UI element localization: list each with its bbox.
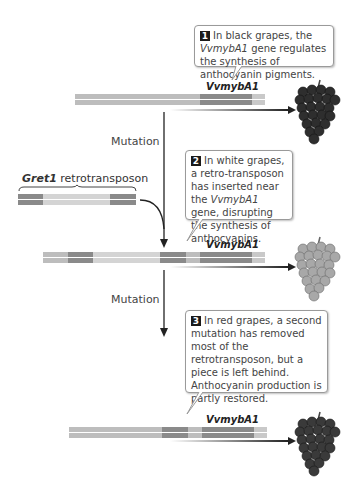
retrotransposon-name: Gret1 (22, 172, 57, 185)
gene-label-2: VvmybA1 (206, 239, 259, 250)
step-3-text: In red grapes, a second mutation has rem… (191, 315, 322, 404)
step-3-badge: 3 (191, 316, 201, 326)
step-1-badge: 1 (200, 31, 210, 41)
step-3-callout: 3In red grapes, a second mutation has re… (185, 310, 328, 393)
step-2-callout: 2In white grapes, a retro-transposon has… (185, 150, 293, 220)
gene-label-1: VvmybA1 (206, 81, 259, 92)
black-grapes-image (293, 80, 343, 150)
retrotransposon-brace (18, 185, 138, 193)
mutation-label-2: Mutation (111, 293, 160, 306)
step-2-gene-name: VvmybA1 (211, 194, 259, 205)
mutation-arrow-1 (159, 112, 169, 262)
red-grapes-image (293, 412, 343, 482)
retrotransposon-suffix: retrotransposon (57, 172, 148, 185)
mutation-label-1: Mutation (111, 135, 160, 148)
step-1-text-a: In black grapes, the (213, 30, 312, 41)
step-2-badge: 2 (191, 156, 201, 166)
step-2-callout-pointer (187, 219, 207, 249)
expression-arrow-1 (170, 106, 300, 116)
dna-strand-black (75, 94, 265, 106)
step-1-gene-name: VvmybA1 (200, 43, 248, 54)
gene-label-3: VvmybA1 (206, 414, 259, 425)
retrotransposon-strand (18, 194, 136, 206)
insertion-curved-arrow (138, 197, 178, 237)
step-3-callout-pointer (187, 392, 207, 422)
step-1-callout: 1In black grapes, the VvmybA1 gene regul… (194, 25, 334, 67)
retrotransposon-label: Gret1 retrotransposon (22, 172, 148, 185)
mutation-arrow-2 (159, 270, 169, 350)
expression-arrow-2 (170, 263, 300, 273)
expression-arrow-3 (170, 437, 300, 447)
white-grapes-image (293, 237, 343, 307)
